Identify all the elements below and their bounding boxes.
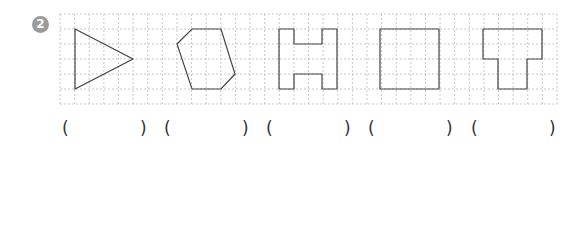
close-paren: ) <box>446 118 453 138</box>
answer-blank-4[interactable] <box>378 116 444 140</box>
close-paren: ) <box>344 118 351 138</box>
answer-blank-3[interactable] <box>276 116 342 140</box>
open-paren: ( <box>164 118 171 138</box>
open-paren: ( <box>62 118 69 138</box>
open-paren: ( <box>471 118 478 138</box>
close-paren: ) <box>242 118 249 138</box>
open-paren: ( <box>266 118 273 138</box>
answer-blank-5[interactable] <box>481 116 547 140</box>
answer-blank-1[interactable] <box>72 116 138 140</box>
close-paren: ) <box>140 118 147 138</box>
open-paren: ( <box>368 118 375 138</box>
answer-blank-2[interactable] <box>174 116 240 140</box>
close-paren: ) <box>549 118 556 138</box>
